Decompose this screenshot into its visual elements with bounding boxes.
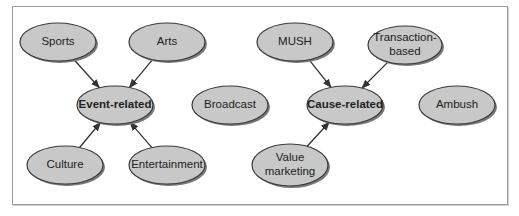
node-label: Value (276, 151, 305, 163)
node-ambush: Ambush (419, 86, 497, 126)
nodes-layer: SportsArtsEvent-relatedBroadcastCultureE… (20, 23, 497, 188)
node-label: Culture (46, 158, 83, 170)
node-label: Cause-related (307, 98, 383, 110)
concept-diagram: SportsArtsEvent-relatedBroadcastCultureE… (0, 0, 519, 216)
node-entertainment: Entertainment (129, 146, 207, 186)
node-label: MUSH (278, 35, 312, 47)
node-label: Sports (41, 35, 74, 47)
arrow-transaction-to-cause (362, 62, 388, 88)
arrow-arts-to-event (129, 60, 152, 88)
node-label: Transaction- (373, 31, 437, 43)
node-cause: Cause-related (307, 86, 385, 126)
node-label: based (389, 45, 420, 57)
node-label: Event-related (79, 98, 152, 110)
node-label: marketing (265, 165, 316, 177)
arrow-sports-to-event (74, 59, 100, 87)
node-arts: Arts (129, 23, 207, 63)
node-culture: Culture (27, 146, 105, 186)
node-label: Entertainment (131, 158, 203, 170)
node-label: Broadcast (204, 98, 257, 110)
arrow-entertainment-to-event (130, 122, 152, 147)
arrow-value-to-cause (307, 122, 329, 146)
node-value: Valuemarketing (252, 144, 330, 188)
node-label: Ambush (436, 98, 478, 110)
node-event: Event-related (77, 86, 155, 126)
node-transaction: Transaction-based (368, 26, 444, 66)
arrow-mush-to-cause (309, 60, 331, 88)
node-broadcast: Broadcast (192, 86, 270, 126)
node-mush: MUSH (257, 23, 335, 63)
arrow-culture-to-event (80, 123, 101, 148)
node-label: Arts (157, 35, 178, 47)
node-sports: Sports (20, 23, 98, 63)
